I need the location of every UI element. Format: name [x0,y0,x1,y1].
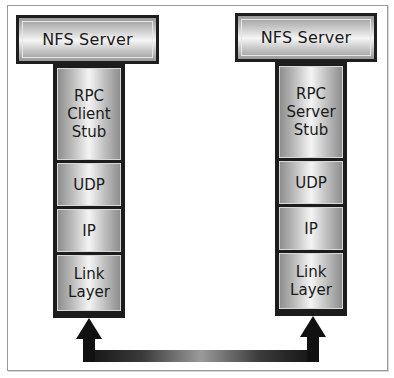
connector-arrow-icon [0,0,394,378]
